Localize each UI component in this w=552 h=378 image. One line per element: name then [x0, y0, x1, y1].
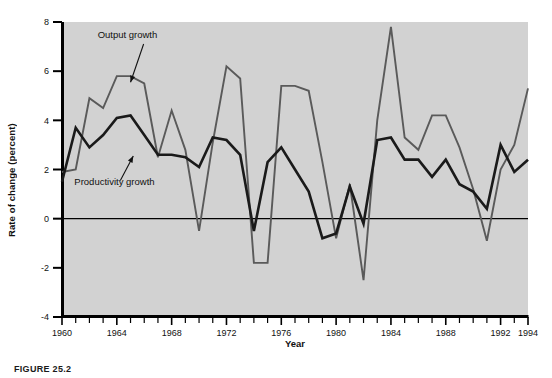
x-tick-label-1984: 1984 — [381, 328, 401, 338]
y-axis-tick-labels: -4-202468 — [41, 17, 49, 322]
x-tick-label-1960: 1960 — [52, 328, 72, 338]
y-tick-label-8: 8 — [44, 17, 49, 27]
x-tick-label-1992: 1992 — [491, 328, 511, 338]
x-axis-label: Year — [62, 338, 528, 349]
y-axis-major-ticks — [53, 22, 62, 317]
annotation-label-2: Productivity growth — [74, 176, 154, 187]
x-tick-label-1994: 1994 — [518, 328, 538, 338]
x-tick-label-1972: 1972 — [216, 328, 236, 338]
x-tick-label-1976: 1976 — [271, 328, 291, 338]
y-axis-label: Rate of change (percent) — [2, 60, 20, 300]
y-tick-label-4: 4 — [44, 116, 49, 126]
y-tick-label--2: -2 — [41, 263, 49, 273]
figure-container: -4-202468 196019641968197219761980198419… — [0, 0, 552, 378]
x-tick-label-1964: 1964 — [107, 328, 127, 338]
x-tick-label-1988: 1988 — [436, 328, 456, 338]
y-tick-label-6: 6 — [44, 66, 49, 76]
chart-svg: -4-202468 196019641968197219761980198419… — [0, 0, 552, 378]
figure-caption: FIGURE 25.2 — [14, 364, 71, 374]
y-tick-label--4: -4 — [41, 312, 49, 322]
annotation-label-1: Output growth — [98, 29, 158, 40]
x-tick-label-1980: 1980 — [326, 328, 346, 338]
y-tick-label-0: 0 — [44, 214, 49, 224]
x-axis-minor-ticks — [62, 317, 528, 325]
x-axis-tick-labels: 1960196419681972197619801984198819921994 — [52, 328, 538, 338]
x-tick-label-1968: 1968 — [162, 328, 182, 338]
y-tick-label-2: 2 — [44, 165, 49, 175]
